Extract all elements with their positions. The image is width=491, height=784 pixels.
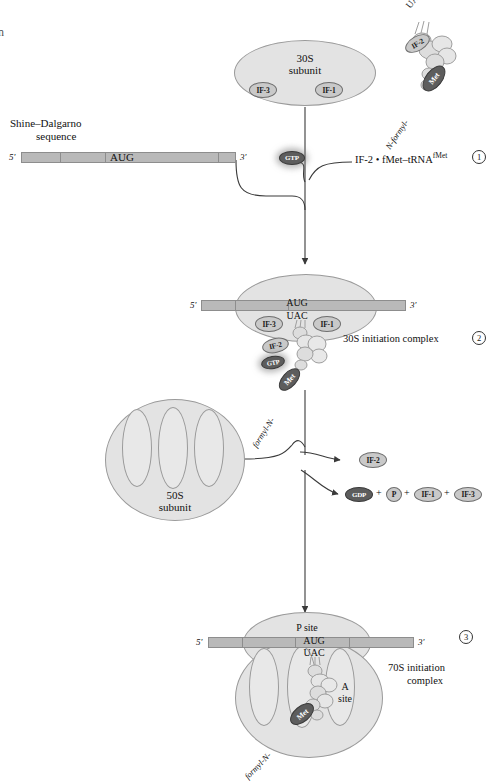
released-phosphate-badge: P [386,487,402,502]
30s-subunit-label-line2: subunit [289,64,321,76]
step4-codon-label: AUG [303,635,325,646]
trna-structure-step2 [275,318,355,408]
50s-lobe-right [194,409,224,487]
shine-dalgarno-label-line2: sequence [36,130,76,142]
if1-badge-30s: IF-1 [315,82,343,98]
step2-number: 2 [472,331,486,345]
step2-complex-label: 30S initiation complex [343,333,439,345]
shine-dalgarno-label-line1: Shine–Dalgarno [10,117,81,129]
50s-subunit-label-line2: subunit [159,501,191,513]
step4-3prime-label: 3' [418,637,424,647]
step1-number: 1 [472,150,486,164]
plus-sign-2: + [404,487,410,498]
a-site-label-line2: site [338,693,352,704]
p-site-label: P site [296,622,318,633]
mrna-5prime-label: 5' [9,152,15,162]
released-if1-badge: IF-1 [414,487,442,502]
step4-number: 3 [459,630,473,644]
a-site-label-line1: A [341,681,348,692]
70s-lobe-left [249,648,279,726]
step4-5prime-label: 5' [196,637,202,647]
50s-lobe-left [122,409,152,487]
start-codon-label: AUG [110,151,134,163]
released-if2-badge: IF-2 [359,452,387,468]
released-gdp-badge: GDP [345,487,373,502]
if3-badge-30s: IF-3 [249,82,277,98]
step1-reactant-superscript: fMet [433,151,448,160]
50s-lobe-middle [158,407,188,489]
step2-5prime-label: 5' [190,300,196,310]
step2-codon-label: AUG [286,297,308,308]
step1-reactant-text: IF-2 • fMet–tRNA [355,154,433,165]
plus-sign-3: + [444,487,450,498]
mrna-3prime-label: 3' [240,152,246,162]
step4-complex-label-line1: 70S initiation [388,662,445,674]
50s-subunit-label-line1: 50S [166,489,183,501]
step2-3prime-label: 3' [410,300,416,310]
gtp-badge-step1: GTP [279,151,305,165]
released-if3-badge: IF-3 [454,487,482,502]
translation-initiation-figure: n 30S subu [0,0,491,784]
30s-subunit-label-line1: 30S [296,52,313,64]
plus-sign-1: + [376,487,382,498]
step4-complex-label-line2: complex [407,675,443,687]
step1-reactant-label: IF-2 • fMet–tRNAfMet [355,152,447,165]
